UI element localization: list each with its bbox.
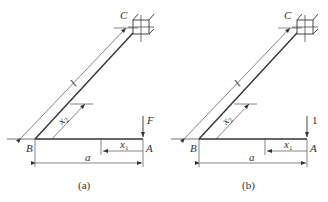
label-x1: x1 (284, 139, 292, 152)
label-b: B (26, 143, 33, 154)
load-label-unit: 1 (312, 115, 318, 126)
frame-diagram-b (164, 0, 328, 202)
label-c: C (120, 10, 127, 21)
label-a-point: A (146, 143, 153, 154)
label-c: C (284, 10, 291, 21)
label-a-length: a (249, 152, 255, 163)
caption-b: (b) (242, 180, 255, 191)
load-label-f: F (147, 115, 154, 126)
label-a-length: a (85, 152, 91, 163)
label-x1: x1 (120, 139, 128, 152)
frame-diagram-a (0, 0, 164, 202)
label-a-point: A (310, 143, 317, 154)
caption-a: (a) (78, 180, 90, 191)
label-b: B (190, 143, 197, 154)
panel-b: C l x2 1 B A x1 a (b) (164, 0, 328, 202)
panel-a: C l x2 F B A x1 a (a) (0, 0, 164, 202)
